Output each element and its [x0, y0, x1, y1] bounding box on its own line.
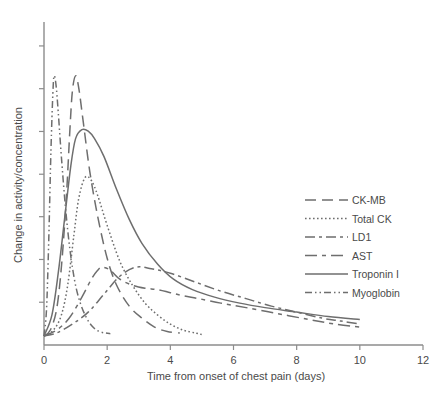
legend-label-ast: AST [352, 250, 373, 262]
x-tick-label: 10 [354, 354, 366, 366]
cardiac-marker-chart: 024681012 CK-MBTotal CKLD1ASTTroponin IM… [0, 0, 437, 401]
x-tick-label: 2 [104, 354, 110, 366]
x-tick-label: 8 [294, 354, 300, 366]
x-axis-ticks [44, 345, 423, 350]
series-line-ck-mb [44, 76, 180, 336]
x-axis-title: Time from onset of chest pain (days) [147, 370, 325, 382]
chart-legend: CK-MBTotal CKLD1ASTTroponin IMyoglobin [305, 194, 400, 299]
chart-canvas: 024681012 CK-MBTotal CKLD1ASTTroponin IM… [0, 0, 437, 401]
series-line-troponin-i [44, 129, 360, 336]
x-tick-label: 6 [230, 354, 236, 366]
x-axis-tick-labels: 024681012 [41, 354, 429, 366]
series-curves [44, 76, 360, 336]
legend-label-total-ck: Total CK [352, 213, 392, 225]
legend-label-ld1: LD1 [352, 231, 371, 243]
x-tick-label: 0 [41, 354, 47, 366]
x-tick-label: 12 [417, 354, 429, 366]
x-tick-label: 4 [167, 354, 173, 366]
y-axis-ticks [39, 46, 44, 302]
legend-label-troponin-i: Troponin I [352, 268, 399, 280]
legend-label-myoglobin: Myoglobin [352, 287, 400, 299]
series-line-total-ck [44, 176, 202, 336]
y-axis-title: Change in activity/concentration [12, 107, 24, 263]
series-line-myoglobin [44, 76, 110, 336]
legend-label-ck-mb: CK-MB [352, 194, 386, 206]
